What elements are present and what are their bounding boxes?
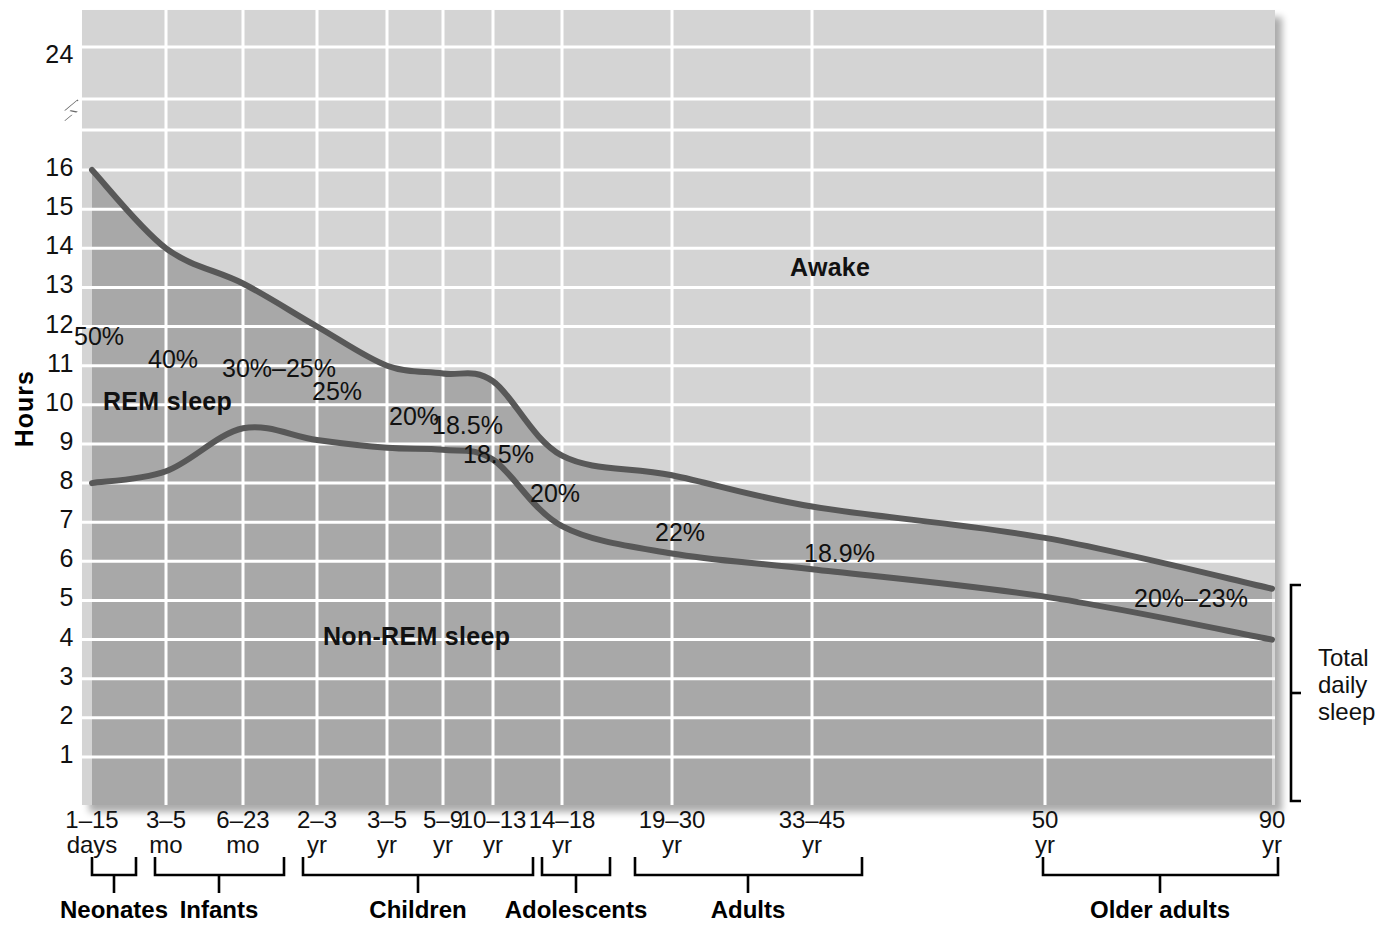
annotation-awake: Awake <box>790 253 870 282</box>
bracket-adolescents <box>542 857 610 875</box>
age-group-brackets <box>0 855 1388 895</box>
y-tick-7: 7 <box>36 507 74 532</box>
bracket-infants <box>155 857 284 875</box>
x-tick-line1: 50 <box>1032 806 1059 833</box>
annotation-20-23: 20%–23% <box>1134 584 1248 613</box>
bracket-children <box>303 857 533 875</box>
bracket-adults <box>635 857 862 875</box>
x-tick-line2: yr <box>757 833 867 858</box>
y-tick-14: 14 <box>36 233 74 258</box>
y-tick-6: 6 <box>36 546 74 571</box>
total-daily-sleep-bracket <box>1288 583 1320 803</box>
x-tick-line1: 3–5 <box>146 806 186 833</box>
annotation-non-rem-sleep: Non-REM sleep <box>323 622 510 651</box>
y-tick-16: 16 <box>36 155 74 180</box>
bracket-older-adults <box>1043 857 1278 875</box>
annotation-18-5: 18.5% <box>432 411 503 440</box>
x-tick-11: 90yr <box>1217 808 1327 857</box>
tds-line-3: sleep <box>1318 699 1388 726</box>
annotation-rem-sleep: REM sleep <box>103 387 232 416</box>
bracket-neonates <box>92 857 136 875</box>
group-label-adults: Adults <box>618 896 878 924</box>
y-tick-2: 2 <box>36 703 74 728</box>
y-tick-13: 13 <box>36 272 74 297</box>
y-tick-10: 10 <box>36 390 74 415</box>
annotation-50: 50% <box>74 322 124 351</box>
sleep-hours-by-age-chart: Hours 2416151413121110987654321 AwakeREM… <box>0 0 1388 928</box>
tds-line-2: daily <box>1318 672 1388 699</box>
y-tick-3: 3 <box>36 664 74 689</box>
annotation-18-5: 18.5% <box>463 440 534 469</box>
plot-svg <box>82 10 1275 805</box>
y-tick-5: 5 <box>36 585 74 610</box>
x-tick-line2: yr <box>507 833 617 858</box>
x-tick-line1: 14–18 <box>529 806 596 833</box>
x-tick-line2: yr <box>617 833 727 858</box>
y-tick-9: 9 <box>36 429 74 454</box>
tds-line-1: Total <box>1318 645 1388 672</box>
group-label-older-adults: Older adults <box>1030 896 1290 924</box>
y-tick-8: 8 <box>36 468 74 493</box>
x-tick-line1: 19–30 <box>639 806 706 833</box>
x-tick-8: 19–30yr <box>617 808 727 857</box>
y-tick-1: 1 <box>36 742 74 767</box>
total-daily-sleep-label: Total daily sleep <box>1318 645 1388 726</box>
x-tick-line2: yr <box>990 833 1100 858</box>
annotation-22: 22% <box>655 518 705 547</box>
annotation-25: 25% <box>312 377 362 406</box>
annotation-40: 40% <box>148 345 198 374</box>
x-tick-10: 50yr <box>990 808 1100 857</box>
annotation-20: 20% <box>530 479 580 508</box>
annotation-18-9: 18.9% <box>804 539 875 568</box>
y-tick-4: 4 <box>36 625 74 650</box>
y-tick-15: 15 <box>36 194 74 219</box>
x-tick-7: 14–18yr <box>507 808 617 857</box>
x-tick-line1: 90 <box>1259 806 1286 833</box>
y-tick-24: 24 <box>36 42 74 67</box>
x-tick-line1: 33–45 <box>779 806 846 833</box>
plot-area <box>82 10 1275 805</box>
y-tick-11: 11 <box>36 351 74 376</box>
y-tick-12: 12 <box>36 312 74 337</box>
x-tick-9: 33–45yr <box>757 808 867 857</box>
x-tick-line1: 2–3 <box>297 806 337 833</box>
x-tick-line2: yr <box>1217 833 1327 858</box>
